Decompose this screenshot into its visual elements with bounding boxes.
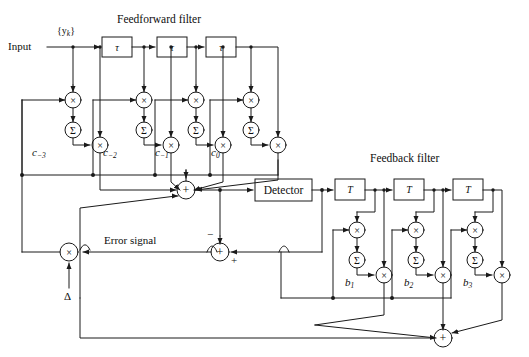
accum-node-fbtap2 [408,252,424,268]
wire-fbtap3-coef [475,268,492,275]
accum-node-fbtap3 [467,252,483,268]
feedforward-tap-4 [196,47,286,190]
mult-node-tap2 [136,92,152,108]
coef-label-b1: b1 [345,276,354,290]
feedforward-delay-chain [47,37,236,57]
coef-subscript: −3 [37,151,46,160]
coef-label-b2: b2 [404,276,413,290]
feedforward-tap-3 [155,47,231,190]
coef-mult-node-fbtap2 [435,267,451,283]
detector-box [255,179,312,201]
dfe-block-diagram [0,0,529,357]
coef-subscript: −2 [108,151,117,160]
wire-tap4-to-summer [196,153,278,190]
sequence-close: } [70,25,75,36]
feedforward-tap-2 [93,47,180,190]
wire-fbtap2-down [416,190,434,212]
wire-fbtap3-to-summer [452,283,502,333]
input-label: Input [8,40,31,52]
step-size-label: Δ [64,290,71,302]
delay-box-tau-3 [206,37,236,57]
feedback-tap-3 [451,190,510,333]
wire-hop-2 [279,246,289,252]
feedforward-filter-title: Feedforward filter [117,13,201,25]
input-sequence-label: {yk} [57,25,75,38]
sequence-open: {y [57,25,67,36]
mult-node-fbtap2 [408,222,424,238]
coef-subscript: 1 [351,281,355,290]
wire-tap1-coef [73,138,90,145]
wire-tap4-coef [251,138,268,145]
delay-box-tau-2 [157,37,187,57]
delta-mult-node [60,243,78,261]
diff-summer-node [211,243,229,261]
feedback-summer-node [434,329,452,347]
coef-mult-node-tap4 [270,137,286,153]
delay-box-T-1 [335,179,365,200]
error-distribution-bus [22,160,278,175]
coef-subscript: −1 [160,151,169,160]
feedback-tap-2 [392,190,451,330]
delay-box-T-3 [453,179,483,200]
accum-node-tap2 [136,122,152,138]
accum-node-fbtap1 [349,252,365,268]
forward-summer-and-detector [177,170,333,244]
feedback-delay-chain [335,179,483,200]
accum-node-tap4 [243,122,259,138]
wire-tap4-signal-down [236,47,278,137]
accum-node-tap1 [65,122,81,138]
diff-minus-sign: − [207,228,213,240]
delay-box-T-2 [394,179,424,200]
figure-canvas: Feedforward filter Feedback filter Input… [0,0,529,357]
feedback-filter-title: Feedback filter [370,152,439,164]
diff-plus-sign: + [231,254,237,266]
wire-fbtap3-down [475,190,493,212]
mult-node-tap1 [65,92,81,108]
coef-subscript: 0 [216,151,220,160]
mult-node-tap3 [188,92,204,108]
mult-node-tap4 [243,92,259,108]
wire-fbtap1-coef [357,268,374,275]
coef-label-b3: b3 [463,276,472,290]
wire-feedback-return-b [80,196,176,298]
wire-fbtap1-to-summer-b [315,325,436,338]
wire-hop-3 [80,245,90,250]
step-size-multiplier [22,100,78,288]
coef-label-c-0: c0 [211,146,220,160]
mult-node-fbtap1 [349,222,365,238]
error-signal-label: Error signal [104,234,156,246]
wire-tap2-coef [144,138,161,145]
wire-fbtap2-coef [416,268,433,275]
coef-label-c-1: c−1 [155,146,169,160]
coef-label-c-2: c−2 [103,146,117,160]
accum-node-tap3 [188,122,204,138]
wire-fbtap1-down [357,190,375,212]
coef-subscript: 2 [410,281,414,290]
coef-subscript: 3 [469,281,473,290]
coef-label-c-3: c−3 [32,146,46,160]
delay-box-tau-1 [102,37,132,57]
coef-mult-node-fbtap3 [494,267,510,283]
coef-mult-node-fbtap1 [376,267,392,283]
feedforward-tap-1 [22,47,176,190]
mult-node-fbtap3 [467,222,483,238]
feedback-summer [80,196,452,347]
